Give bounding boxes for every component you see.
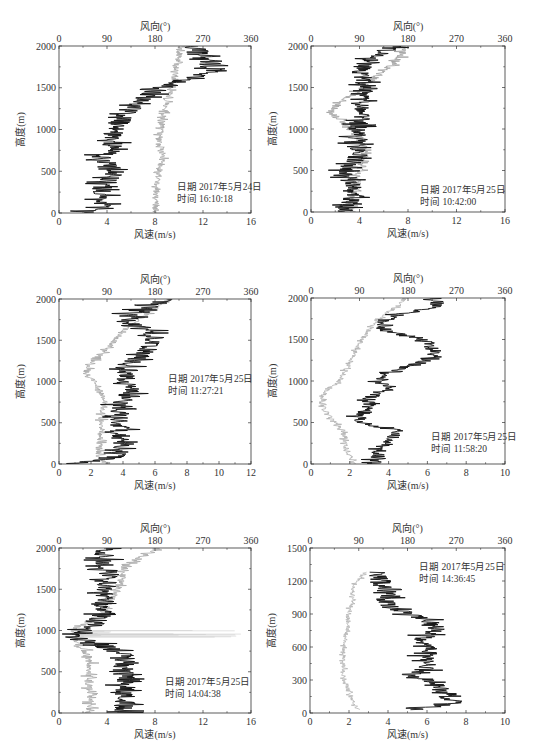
y-tick-label: 1500 — [36, 82, 56, 93]
x2-tick-label: 270 — [196, 535, 211, 546]
y-tick-label: 300 — [292, 675, 307, 686]
y-tick-label: 1000 — [36, 625, 56, 636]
date-annotation: 日期 2017年5月24日 — [177, 181, 263, 192]
y-tick-label: 0 — [51, 208, 56, 219]
x-tick-label: 6 — [425, 467, 430, 478]
x2-tick-label: 180 — [401, 285, 416, 296]
x-tick-label: 2 — [347, 467, 352, 478]
wind-speed-line — [328, 46, 408, 212]
x2-tick-label: 90 — [355, 285, 365, 296]
y-tick-label: 1000 — [36, 376, 56, 387]
x2-tick-label: 360 — [244, 535, 259, 546]
x2-tick-label: 270 — [196, 286, 211, 297]
x2-tick-label: 360 — [498, 285, 513, 296]
y-tick-label: 1500 — [36, 584, 56, 595]
x-axis-label: 风速(m/s) — [387, 228, 428, 240]
x2-tick-label: 360 — [244, 33, 259, 44]
wind-speed-line — [370, 572, 462, 710]
time-annotation: 时间 11:58:20 — [431, 443, 487, 454]
x-tick-label: 4 — [105, 716, 110, 727]
x-axis-label: 风速(m/s) — [134, 480, 175, 492]
x2-tick-label: 180 — [148, 286, 163, 297]
x-tick-label: 2 — [89, 467, 94, 478]
y-axis-label: 高度(m) — [14, 613, 27, 647]
x2-axis-label: 风向(°) — [393, 20, 424, 33]
x2-axis-label: 风向(°) — [140, 273, 171, 286]
chart-panel-5: 04812160901802703600500100015002000风速(m/… — [14, 522, 259, 741]
wind-speed-line — [67, 299, 172, 464]
y-tick-label: 2000 — [36, 41, 56, 52]
y-tick-label: 2000 — [36, 294, 56, 305]
y-tick-label: 900 — [292, 609, 307, 620]
x2-tick-label: 0 — [309, 285, 314, 296]
y-tick-label: 500 — [41, 166, 56, 177]
y-tick-label: 1000 — [36, 124, 56, 135]
x2-tick-label: 90 — [102, 535, 112, 546]
y-tick-label: 0 — [303, 459, 308, 470]
x2-tick-label: 180 — [148, 535, 163, 546]
x-tick-label: 4 — [357, 215, 362, 226]
x2-tick-label: 270 — [449, 33, 464, 44]
x-tick-label: 16 — [246, 216, 256, 227]
x-tick-label: 6 — [425, 716, 430, 727]
y-tick-label: 1200 — [287, 576, 307, 587]
y-tick-label: 1000 — [288, 376, 308, 387]
y-tick-label: 1000 — [288, 124, 308, 135]
y-axis-label: 高度(m) — [266, 364, 279, 398]
x2-tick-label: 360 — [498, 535, 513, 546]
y-tick-label: 500 — [41, 417, 56, 428]
x2-tick-label: 360 — [244, 286, 259, 297]
x2-axis-label: 风向(°) — [392, 522, 423, 535]
x-tick-label: 10 — [214, 467, 224, 478]
date-annotation: 日期 2017年5月25日 — [419, 561, 505, 572]
x-tick-label: 8 — [153, 216, 158, 227]
x2-axis-label: 风向(°) — [140, 20, 171, 33]
x2-tick-label: 270 — [449, 535, 464, 546]
time-annotation: 时间 10:42:00 — [420, 196, 476, 207]
x2-tick-label: 180 — [401, 33, 416, 44]
x-tick-label: 10 — [500, 716, 510, 727]
x2-axis-label: 风向(°) — [140, 522, 171, 535]
time-annotation: 时间 11:27:21 — [168, 385, 224, 396]
date-annotation: 日期 2017年5月25日 — [431, 431, 517, 442]
y-tick-label: 1500 — [288, 334, 308, 345]
wind-direction-line — [339, 572, 366, 710]
x2-tick-label: 0 — [309, 33, 314, 44]
x-tick-label: 4 — [121, 467, 126, 478]
y-axis-label: 高度(m) — [266, 112, 279, 146]
x-tick-label: 8 — [464, 716, 469, 727]
time-annotation: 时间 14:36:45 — [419, 573, 475, 584]
x2-tick-label: 180 — [148, 33, 163, 44]
x2-tick-label: 90 — [102, 286, 112, 297]
x-tick-label: 0 — [57, 467, 62, 478]
x-tick-label: 16 — [500, 215, 510, 226]
y-tick-label: 500 — [293, 417, 308, 428]
x-tick-label: 12 — [452, 215, 462, 226]
x2-axis-label: 风向(°) — [393, 272, 424, 285]
x-axis-label: 风速(m/s) — [134, 229, 175, 241]
y-tick-label: 600 — [292, 642, 307, 653]
x2-tick-label: 0 — [57, 286, 62, 297]
wind-direction-line — [327, 46, 409, 212]
x-axis-label: 风速(m/s) — [387, 729, 428, 741]
x-tick-label: 4 — [386, 467, 391, 478]
wind-speed-line — [346, 298, 444, 464]
x-tick-label: 12 — [246, 467, 256, 478]
chart-panel-2: 04812160901802703600500100015002000风速(m/… — [266, 20, 513, 240]
y-tick-label: 0 — [51, 708, 56, 719]
y-tick-label: 500 — [41, 666, 56, 677]
x-tick-label: 0 — [309, 215, 314, 226]
x2-tick-label: 90 — [355, 33, 365, 44]
chart-panel-3: 0246810120901802703600500100015002000风速(… — [14, 273, 259, 492]
time-annotation: 时间 16:10:18 — [177, 193, 233, 204]
y-tick-label: 2000 — [288, 293, 308, 304]
date-annotation: 日期 2017年5月25日 — [165, 676, 251, 687]
wind-direction-line — [319, 298, 408, 464]
y-tick-label: 1500 — [36, 335, 56, 346]
x-tick-label: 8 — [406, 215, 411, 226]
x-tick-label: 6 — [153, 467, 158, 478]
y-tick-label: 1500 — [287, 543, 307, 554]
x2-tick-label: 270 — [196, 33, 211, 44]
x-tick-label: 0 — [57, 216, 62, 227]
y-tick-label: 0 — [302, 708, 307, 719]
